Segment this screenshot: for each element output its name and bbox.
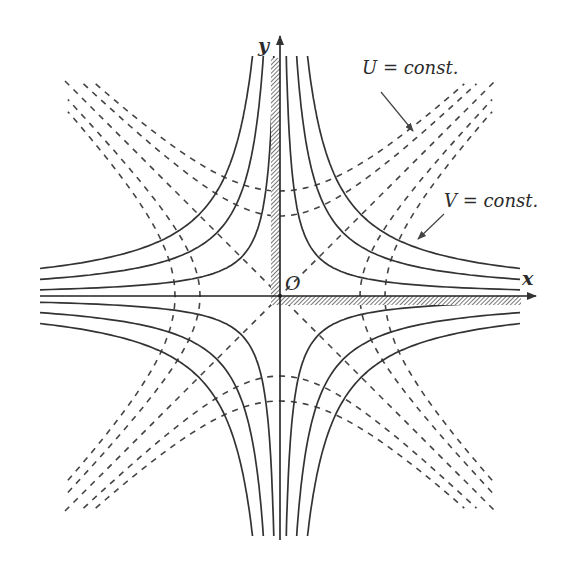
u-const-arrow — [381, 92, 413, 131]
x-axis-label: x — [521, 267, 534, 289]
hatch-x-axis — [271, 296, 521, 305]
hatch-y-axis — [271, 58, 280, 296]
v-const-arrow — [418, 214, 444, 239]
hatched-boundary — [271, 58, 521, 305]
origin-label: O — [285, 272, 301, 294]
v-const-label: V = const. — [444, 190, 538, 211]
u-const-label: U = const. — [362, 57, 458, 78]
conformal-map-diagram: y x O U = const. V = const. — [0, 0, 568, 572]
y-axis-label: y — [257, 34, 271, 56]
origin-dot — [278, 294, 282, 298]
